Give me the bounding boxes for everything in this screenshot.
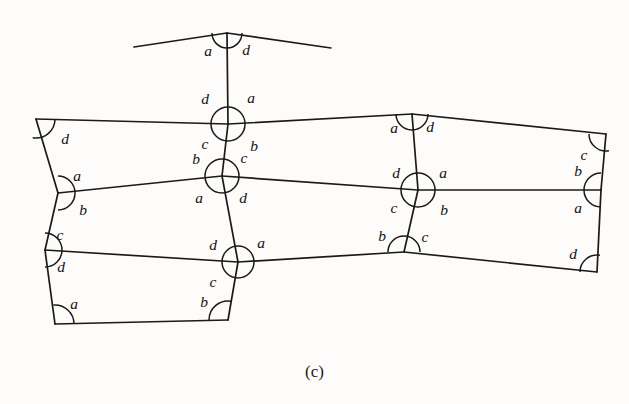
- angle-label-T2-left: a: [390, 119, 398, 136]
- angle-label-M2-upper-right: a: [439, 164, 447, 181]
- angle-label-B2-left: b: [378, 227, 386, 244]
- edge-B1-BBR: [228, 262, 238, 320]
- tiling-diagram: adddacbadcabbcaddacbbacddacbcdab: [0, 0, 629, 404]
- edge-BBL-BBR: [55, 320, 228, 324]
- edge-MR-BR: [597, 190, 601, 272]
- edge-T1-T2: [228, 114, 412, 124]
- angle-label-M2-lower-right: b: [440, 201, 448, 218]
- angle-label-MR-above-left: b: [574, 162, 582, 179]
- angle-label-B1-upper-left: d: [209, 236, 217, 253]
- angle-label-T1-lower-right: b: [250, 137, 258, 154]
- angle-label-BR-above-left: d: [569, 245, 577, 262]
- edge-TR-MR: [601, 134, 606, 190]
- angle-label-BL-below-right: d: [57, 258, 65, 275]
- edge-B1-B2: [238, 252, 404, 262]
- angle-label-TR-below-left: c: [581, 146, 588, 163]
- angle-label-P-left: a: [204, 42, 212, 59]
- angle-label-ML-below-right: b: [79, 201, 87, 218]
- angle-label-P-right: d: [242, 41, 250, 58]
- angle-label-M2-lower-left: c: [391, 199, 398, 216]
- angle-label-M1-upper-right: c: [241, 149, 248, 166]
- edge-T2-M2: [412, 114, 418, 190]
- edge-BL-BBL: [45, 250, 55, 324]
- angle-label-B2-right: c: [422, 228, 429, 245]
- edges-group: [36, 33, 606, 324]
- edge-M1-B1: [222, 176, 238, 262]
- angle-label-BL-above-right: c: [57, 226, 64, 243]
- angle-label-MR-below-left: a: [574, 199, 582, 216]
- angle-label-T1-lower-left: c: [202, 135, 209, 152]
- angle-label-BBL-above-right: a: [70, 295, 78, 312]
- angle-label-M1-lower-left: a: [195, 189, 203, 206]
- edge-M1-M2: [222, 176, 418, 190]
- angle-label-M2-upper-left: d: [392, 164, 400, 181]
- angle-label-M1-lower-right: d: [239, 189, 247, 206]
- angle-labels-group: adddacbadcabbcaddacbbacddacbcdab: [57, 41, 588, 312]
- angle-label-T2-right: d: [426, 118, 434, 135]
- angle-label-T1-upper-left: d: [201, 90, 209, 107]
- edge-TL-ML: [36, 119, 58, 193]
- angle-label-TL-below-right: d: [61, 130, 69, 147]
- edge-M2-B2: [404, 190, 418, 252]
- edge-T1-M1: [222, 124, 228, 176]
- angle-label-M1-upper-left: b: [192, 150, 200, 167]
- angle-label-ML-above-right: a: [73, 167, 81, 184]
- angle-label-B1-upper-right: a: [257, 234, 265, 251]
- figure-caption: (c): [0, 362, 629, 382]
- angle-marks-group: [33, 33, 609, 324]
- angle-label-BBR-above-left: b: [200, 293, 208, 310]
- angle-label-B1-lower-left: c: [210, 273, 217, 290]
- edge-B2-BR: [404, 252, 597, 272]
- edge-T2-TR: [412, 114, 606, 134]
- edge-TL-T1: [36, 119, 228, 124]
- angle-label-T1-upper-right: a: [247, 89, 255, 106]
- edge-P-T1: [227, 33, 228, 124]
- figure-container: adddacbadcabbcaddacbbacddacbcdab (c): [0, 0, 629, 404]
